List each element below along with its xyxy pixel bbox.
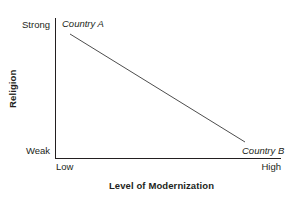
x-tick-label-low: Low [56,162,73,172]
x-axis-title: Level of Modernization [12,181,299,191]
trend-line [70,34,245,142]
y-tick-label-strong: Strong [4,20,50,30]
chart-figure: Strong Weak Low High Religion Level of M… [0,0,299,202]
y-tick-label-weak: Weak [4,146,50,156]
annotation-country-a: Country A [62,19,104,29]
chart-plot-area [0,0,299,202]
y-axis-title: Religion [8,49,18,129]
x-tick-label-high: High [221,162,281,172]
annotation-country-b: Country B [242,146,284,156]
